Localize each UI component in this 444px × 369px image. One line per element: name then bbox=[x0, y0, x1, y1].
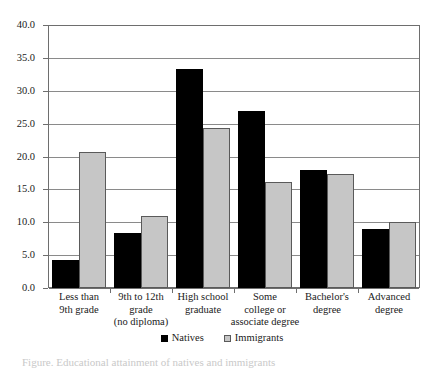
legend-label: Natives bbox=[172, 333, 204, 344]
x-axis-tick-mark bbox=[234, 288, 235, 293]
x-axis-tick-mark bbox=[110, 288, 111, 293]
legend-swatch-immigrants-icon bbox=[224, 335, 231, 342]
y-axis-tick-label: 35.0 bbox=[17, 53, 35, 64]
bar-immigrants bbox=[79, 152, 106, 288]
y-axis-tick-label: 40.0 bbox=[17, 20, 35, 31]
x-axis-category-label: Bachelor's degree bbox=[292, 291, 362, 316]
bar-natives bbox=[52, 260, 79, 288]
bar-natives bbox=[362, 229, 389, 288]
x-axis-category-label: Some college or associate degree bbox=[230, 291, 300, 329]
bar-natives bbox=[300, 170, 327, 288]
bar-group bbox=[296, 25, 358, 288]
bar-immigrants bbox=[203, 128, 230, 288]
y-axis-tick-label: 5.0 bbox=[22, 250, 35, 261]
y-axis-tick-mark bbox=[43, 288, 48, 289]
bar-group bbox=[48, 25, 110, 288]
bar-immigrants bbox=[327, 174, 354, 288]
y-axis-tick-label: 20.0 bbox=[17, 151, 35, 162]
chart-legend: NativesImmigrants bbox=[0, 333, 444, 344]
bar-group bbox=[358, 25, 420, 288]
bar-chart-figure: 40.035.030.025.020.015.010.05.00.0 Less … bbox=[0, 0, 444, 369]
x-axis: Less than 9th grade9th to 12th grade (no… bbox=[48, 291, 420, 333]
legend-swatch-natives-icon bbox=[161, 335, 168, 342]
figure-caption: Figure. Educational attainment of native… bbox=[22, 356, 426, 369]
x-axis-category-label: Advanced degree bbox=[354, 291, 424, 316]
bar-natives bbox=[176, 69, 203, 288]
legend-entry: Natives bbox=[161, 333, 204, 344]
bar-group bbox=[110, 25, 172, 288]
legend-entry: Immigrants bbox=[224, 333, 283, 344]
x-axis-tick-mark bbox=[358, 288, 359, 293]
bars-layer bbox=[48, 25, 420, 288]
y-axis-tick-label: 10.0 bbox=[17, 217, 35, 228]
y-axis-tick-label: 15.0 bbox=[17, 184, 35, 195]
bar-immigrants bbox=[141, 216, 168, 288]
x-axis-category-label: Less than 9th grade bbox=[44, 291, 114, 316]
y-axis-tick-label: 25.0 bbox=[17, 118, 35, 129]
bar-natives bbox=[114, 233, 141, 288]
bar-immigrants bbox=[389, 222, 416, 288]
x-axis-category-label: High school graduate bbox=[168, 291, 238, 316]
x-axis-tick-mark bbox=[172, 288, 173, 293]
bar-group bbox=[172, 25, 234, 288]
bar-immigrants bbox=[265, 182, 292, 288]
x-axis-tick-mark bbox=[296, 288, 297, 293]
bar-natives bbox=[238, 111, 265, 288]
bar-group bbox=[234, 25, 296, 288]
y-axis-tick-label: 0.0 bbox=[22, 283, 35, 294]
legend-label: Immigrants bbox=[235, 333, 283, 344]
x-axis-category-label: 9th to 12th grade (no diploma) bbox=[106, 291, 176, 329]
y-axis: 40.035.030.025.020.015.010.05.00.0 bbox=[0, 25, 44, 288]
y-axis-tick-label: 30.0 bbox=[17, 86, 35, 97]
